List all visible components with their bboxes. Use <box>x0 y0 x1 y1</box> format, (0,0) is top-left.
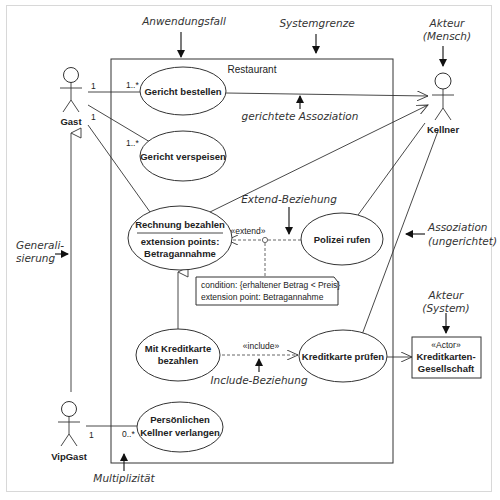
actor-label: Kellner <box>427 124 460 135</box>
annotation-anwendungsfall: Anwendungsfall <box>141 15 226 27</box>
actor-kreditkarten-gesellschaft[interactable]: «Actor» Kreditkarten- Gesellschaft <box>412 337 481 378</box>
constraint-note: condition: {erhaltener Betrag < Preis} e… <box>196 277 340 305</box>
use-case-label-line2: bezahlen <box>158 355 199 366</box>
annotation-gerichtete-assoziation: gerichtete Assoziation <box>242 110 359 122</box>
actor-label: VipGast <box>51 451 88 462</box>
actor-label-line1: Kreditkarten- <box>416 351 475 362</box>
stick-figure-icon <box>60 68 82 113</box>
note-line1: condition: {erhaltener Betrag < Preis} <box>201 280 340 290</box>
multiplicity-gast-verspeisen-uc: 1..* <box>126 138 139 148</box>
use-case-kellner-verlangen[interactable]: Persönlichen Kellner verlangen <box>137 402 223 452</box>
use-case-label-line1: Persönlichen <box>150 414 210 425</box>
use-case-mit-kreditkarte-bezahlen[interactable]: Mit Kreditkarte bezahlen <box>136 329 220 381</box>
use-case-label: Kreditkarte prüfen <box>302 351 385 362</box>
use-case-rechnung-bezahlen[interactable]: Rechnung bezahlen extension points: Betr… <box>128 206 232 270</box>
multiplicity-gast-verspeisen-actor: 1 <box>91 112 96 122</box>
annotation-generalisierung-line1: Generali- <box>16 239 64 251</box>
annotation-systemgrenze: Systemgrenze <box>279 17 354 29</box>
extension-point-name: Betragannahme <box>144 248 216 259</box>
annotation-generalisierung-line2: sierung <box>16 252 55 264</box>
annotation-akteur-mensch-line1: Akteur <box>429 17 465 29</box>
use-case-label: Rechnung bezahlen <box>135 219 225 230</box>
actor-label: Gast <box>60 116 82 127</box>
use-case-label: Gericht bestellen <box>144 86 221 97</box>
use-case-label: Gericht verspeisen <box>140 151 226 162</box>
use-case-kreditkarte-pruefen[interactable]: Kreditkarte prüfen <box>299 330 387 382</box>
stick-figure-icon <box>432 73 454 120</box>
use-case-label: Polizei rufen <box>314 234 371 245</box>
use-case-polizei-rufen[interactable]: Polizei rufen <box>301 213 383 265</box>
annotation-akteur-system-line1: Akteur <box>428 289 464 301</box>
system-boundary-label: Restaurant <box>228 64 277 75</box>
extension-points-title: extension points: <box>141 236 220 247</box>
multiplicity-vip-uc: 0..* <box>122 429 135 439</box>
use-case-gericht-verspeisen[interactable]: Gericht verspeisen <box>140 131 226 181</box>
stick-figure-icon <box>58 402 80 447</box>
annotation-assoziation-line2: (ungerichtet) <box>428 235 497 247</box>
use-case-gericht-bestellen[interactable]: Gericht bestellen <box>140 67 226 115</box>
multiplicity-gast-bestellen-actor: 1 <box>91 81 96 91</box>
actor-stereotype: «Actor» <box>431 340 461 350</box>
annotation-extend-beziehung: Extend-Beziehung <box>241 193 337 205</box>
use-case-diagram: Restaurant Gericht bestellen <box>0 0 500 500</box>
annotation-akteur-system-line2: (System) <box>422 302 469 314</box>
extension-point-marker <box>262 237 267 242</box>
use-case-label-line2: Kellner verlangen <box>140 427 220 438</box>
note-line2: extension point: Betragannahme <box>201 292 324 302</box>
annotation-assoziation-line1: Assoziation <box>427 221 488 233</box>
actor-label-line2: Gesellschaft <box>418 363 475 374</box>
actor-vipgast[interactable]: VipGast <box>51 402 88 463</box>
include-stereotype: «include» <box>243 341 280 351</box>
annotation-akteur-mensch-line2: (Mensch) <box>423 30 471 42</box>
multiplicity-gast-bestellen-uc: 1..* <box>126 80 139 90</box>
actor-kellner[interactable]: Kellner <box>427 73 460 135</box>
actor-gast[interactable]: Gast <box>60 68 82 128</box>
annotation-include-beziehung: Include-Beziehung <box>210 374 308 386</box>
multiplicity-vip-actor: 1 <box>89 430 94 440</box>
extend-stereotype: «extend» <box>231 226 266 236</box>
use-case-label-line1: Mit Kreditkarte <box>145 343 212 354</box>
annotation-multiplizitaet: Multiplizität <box>93 472 155 484</box>
